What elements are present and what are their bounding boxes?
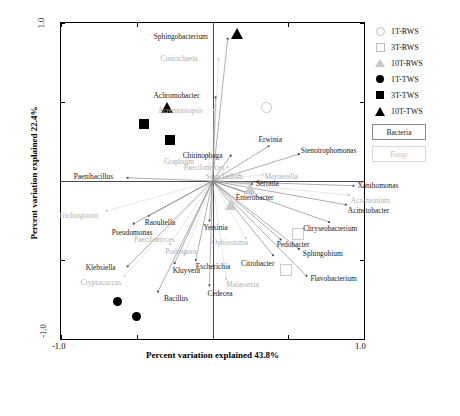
legend-symbol-square-open-icon	[372, 43, 388, 52]
y-tick	[60, 339, 65, 340]
taxon-label-flavobacterium: Flavobacterium	[310, 275, 356, 282]
loading-vector-tip	[208, 219, 210, 221]
loading-vector-line	[170, 181, 212, 244]
loading-vector-tip	[227, 166, 229, 168]
loading-vector-line	[196, 181, 213, 260]
y-tick	[60, 260, 65, 261]
legend-label: 10T-TWS	[391, 107, 423, 116]
loading-vector-line	[213, 181, 349, 195]
taxon-label-xanthomonas: Xanthomonas	[357, 182, 398, 189]
legend-symbol-circle-open-icon	[372, 27, 388, 36]
x-axis-title: Percent variation explained 43.8%	[60, 350, 365, 360]
taxon-label-trichosporon: Trichosporon	[58, 212, 98, 219]
x-tick-top	[288, 22, 289, 27]
taxon-label-pedobacter: Pedobacter	[277, 241, 310, 248]
loading-vector-tip	[195, 259, 197, 261]
legend-item-10t-tws[interactable]: 10T-TWS	[372, 104, 458, 118]
taxon-label-cryptococcus: Cryptococcus	[81, 279, 122, 286]
key-box-bacteria[interactable]: Bacteria	[372, 124, 426, 140]
taxon-label-sphingobium: Sphingobium	[303, 250, 343, 257]
sample-marker-1t-tws	[113, 297, 122, 306]
legend-item-10t-rws[interactable]: 10T-RWS	[372, 56, 458, 70]
sample-marker-1t-rws	[261, 102, 272, 113]
taxon-label-stenotrophomonas: Stenotrophomonas	[301, 147, 356, 154]
legend-symbol-circle-filled-icon	[372, 75, 388, 83]
legend-item-1t-tws[interactable]: 1T-TWS	[372, 72, 458, 86]
taxon-label-sarocladium: Sarocladium	[206, 173, 243, 180]
taxon-label-chryseobacterium: Chryseobacterium	[303, 225, 357, 232]
y-tick	[60, 102, 65, 103]
taxon-label-escherichia: Escherichia	[196, 263, 230, 270]
loading-vector-tip	[105, 210, 107, 212]
loading-vector-tip	[208, 284, 210, 286]
taxon-label-paecilomyces: Paecilomyces	[184, 164, 225, 171]
loading-vector-tip	[227, 38, 229, 40]
taxon-label-raoultella: Raoultella	[145, 219, 175, 226]
taxon-label-ophiostoma: Ophiostoma	[212, 239, 248, 246]
legend-label: 1T-TWS	[391, 75, 419, 84]
taxon-label-acremonium: Acremonium	[351, 197, 390, 204]
loading-vector-tip	[348, 194, 350, 196]
sample-marker-1t-tws	[132, 312, 141, 321]
loading-vector-line	[106, 181, 212, 211]
y-tick-right	[360, 339, 365, 340]
key-box-fungi[interactable]: Fungi	[372, 146, 426, 162]
y-tick-label-max: 1.0	[36, 18, 46, 29]
taxon-label-paenibacillus: Paenibacillus	[74, 173, 113, 180]
taxon-label-kluyvera: Kluyvera	[173, 267, 201, 274]
y-tick	[60, 23, 65, 24]
x-tick	[137, 335, 138, 340]
loading-vector-tip	[305, 275, 307, 277]
loading-vector-tip	[298, 153, 300, 155]
loading-vector-tip	[345, 204, 347, 206]
y-axis-title: Percent variation explained 22.4%	[29, 63, 39, 283]
y-tick-label-min: -1.0	[38, 324, 48, 337]
legend-label: 3T-TWS	[391, 91, 419, 100]
legend-label: 3T-RWS	[391, 43, 419, 52]
legend-item-3t-rws[interactable]: 3T-RWS	[372, 40, 458, 54]
loading-vector-tip	[261, 174, 263, 176]
x-tick-top	[137, 22, 138, 27]
loading-vector-tip	[124, 275, 126, 277]
loading-vector-tip	[157, 291, 159, 293]
x-tick	[288, 335, 289, 340]
taxon-label-cedecea: Cedecea	[207, 290, 232, 297]
loading-vector-tip	[214, 96, 216, 98]
legend-item-3t-tws[interactable]: 3T-TWS	[372, 88, 458, 102]
taxon-label-serratia: Serratia	[256, 180, 279, 187]
legend-label: 10T-RWS	[391, 59, 423, 68]
legend-label: 1T-RWS	[391, 27, 419, 36]
loading-vector-tip	[217, 58, 219, 60]
taxon-label-yersinia: Yersinia	[203, 224, 227, 231]
taxon-label-klebsiella: Klebsiella	[86, 264, 116, 271]
taxon-label-paecilomyces: Paecilomyces	[134, 236, 175, 243]
loading-vector-tip	[328, 221, 330, 223]
sample-marker-10t-tws	[231, 28, 243, 39]
taxon-label-chitinophaga: Chitinophaga	[183, 152, 223, 159]
pca-biplot-figure: SphingobacteriumConiochaetaAchromobacter…	[0, 0, 460, 416]
loading-vector-tip	[267, 145, 269, 147]
loading-vector-tip	[272, 254, 274, 256]
taxon-label-acremoniopsis: Acremoniopsis	[158, 107, 203, 114]
loading-vector-tip	[127, 177, 129, 179]
taxon-label-bacillus: Bacillus	[164, 295, 188, 302]
taxon-label-malassezia: Malassezia	[226, 281, 259, 288]
loading-vector-tip	[127, 265, 129, 267]
legend-symbol-triangle-filled-icon	[372, 107, 388, 116]
y-tick-right	[360, 23, 365, 24]
legend-item-1t-rws[interactable]: 1T-RWS	[372, 24, 458, 38]
loading-vector-tip	[148, 215, 150, 217]
legend-symbol-triangle-open-icon	[372, 59, 388, 67]
legend: 1T-RWS3T-RWS10T-RWS1T-TWS3T-TWS10T-TWSBa…	[372, 24, 458, 162]
taxon-label-erwinia: Erwinia	[259, 136, 282, 143]
taxon-label-sphingobacterium: Sphingobacterium	[154, 33, 208, 40]
y-tick-right	[360, 102, 365, 103]
horizontal-zero-axis	[61, 181, 364, 182]
sample-marker-3t-tws	[139, 119, 149, 129]
legend-symbol-square-filled-icon	[372, 91, 388, 99]
y-tick-right	[360, 260, 365, 261]
taxon-label-coniochaeta: Coniochaeta	[161, 55, 198, 62]
taxon-label-acinetobacter: Acinetobacter	[348, 207, 389, 214]
loading-vector-line	[185, 181, 212, 254]
loading-vector-tip	[230, 155, 232, 157]
